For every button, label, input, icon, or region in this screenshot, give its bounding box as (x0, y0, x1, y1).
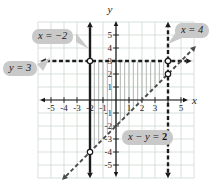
axes (40, 21, 188, 177)
y-tick-label: -1 (105, 108, 113, 118)
x-axis-label: x (191, 94, 197, 106)
open-point (87, 149, 92, 154)
callout-x-eq-neg2: x = −2 (32, 29, 73, 44)
x-tick-label: 1 (127, 103, 132, 113)
open-point (165, 58, 170, 63)
x-tick-label: 3 (153, 103, 158, 113)
y-tick-label: 4 (108, 43, 113, 53)
callout-leader-x-eq-neg2 (76, 33, 89, 49)
graph-figure: -5-4-3-2-1123554321-1-2-3-4-5xy x = −2 y… (0, 0, 218, 186)
y-tick-label: 2 (108, 69, 113, 79)
callout-x-minus-y-eq-2: x − y = 2 (122, 130, 173, 145)
open-point (87, 58, 92, 63)
y-tick-label: -2 (105, 121, 113, 131)
x-tick-label: 2 (140, 103, 145, 113)
y-tick-label: -4 (105, 147, 113, 157)
callout-x-eq-neg2-text: x = −2 (38, 30, 67, 41)
callout-x-minus-y-eq-2-bold: 2 (162, 131, 167, 142)
x-tick-label: -5 (47, 103, 55, 113)
callout-y-eq-3: y = 3 (3, 61, 37, 76)
callout-x-minus-y-eq-2-text: x − y = (128, 131, 162, 142)
y-tick-label: 5 (108, 30, 113, 40)
open-point (165, 71, 170, 76)
callout-x-eq-4-text: x = 4 (181, 24, 203, 35)
x-tick-label: -3 (73, 103, 81, 113)
y-axis-label: y (107, 3, 113, 15)
x-tick-label: 5 (179, 103, 184, 113)
callout-y-eq-3-text: y = 3 (9, 62, 31, 73)
y-tick-label: -5 (105, 160, 113, 170)
callout-x-eq-4: x = 4 (175, 23, 209, 38)
y-tick-label: 1 (108, 82, 113, 92)
x-tick-label: -4 (60, 103, 68, 113)
